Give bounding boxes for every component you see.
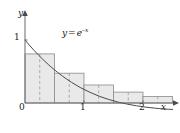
origin-label: 0 (19, 103, 25, 112)
x-axis-tick-label-1: 1 (80, 103, 86, 112)
plot-svg (0, 0, 180, 133)
rectangle-interval-2 (55, 73, 85, 103)
equation-exponent: –x (82, 26, 88, 33)
curve-equation-label: y=e–x (62, 27, 88, 38)
x-axis-label: x (161, 103, 166, 112)
y-axis-label: y (18, 9, 23, 18)
equation-equals-sign: = (67, 28, 77, 38)
figure-canvas: y 1 0 1 2 x y=e–x (0, 0, 180, 133)
equation-exponent-variable: x (85, 26, 88, 33)
x-axis-arrowhead (173, 100, 179, 106)
y-axis-tick-label-1: 1 (14, 33, 20, 42)
x-axis-tick-label-2: 2 (139, 103, 145, 112)
